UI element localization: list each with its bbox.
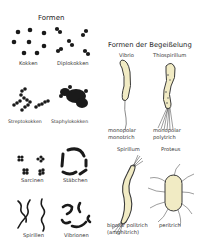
proteus-illustration [148,164,194,226]
shape-label-staebchen: Stäbchen [63,178,87,183]
flagella-type-proteus-line1: peritrich [159,223,181,228]
diplokokken-illustration [55,27,90,56]
shape-label-kokken: Kokken [19,61,38,66]
right-panel-title: Formen der Begeißelung [108,42,192,49]
streptokokken-illustration [12,87,50,112]
flagella-type-vibrio-line2: monotrich [108,135,134,140]
shape-label-vibrionen: Vibrionen [64,233,89,238]
flagella-type-spirillum-line1: bipolar politrich [107,223,148,228]
thiospirillum-illustration [158,63,175,130]
flagella-type-spirillum-line2: (amphitrich) [107,230,139,235]
flagella-name-thiospirillum: Thiospirillum [153,53,186,58]
flagella-name-proteus: Proteus [161,147,180,152]
flagella-name-spirillum: Spirillum [117,147,140,152]
shape-label-sarcinen: Sarcinen [21,178,44,183]
shape-label-spirillen: Spirillen [23,233,44,238]
sarcinen-illustration [17,155,44,175]
vibrio-illustration [120,60,131,130]
flagella-name-vibrio: Vibrio [119,53,134,58]
shape-label-streptokokken: Streptokokken [8,120,42,125]
flagella-type-thiospirillum-line1: monopolar [153,128,181,133]
staphylokokken-illustration [59,85,88,108]
flagella-type-thiospirillum-line2: polytrich [153,135,176,140]
left-panel-title: Formen [38,15,64,22]
vibrionen-illustration [62,203,90,227]
shape-label-staphylokokken: Staphylokokken [51,120,88,125]
staebchen-illustration [62,149,86,174]
kokken-illustration [12,28,47,56]
spirillen-illustration [18,199,45,231]
flagella-type-vibrio-line1: monopolar [108,128,136,133]
shape-label-diplokokken: Diplokokken [57,61,89,66]
